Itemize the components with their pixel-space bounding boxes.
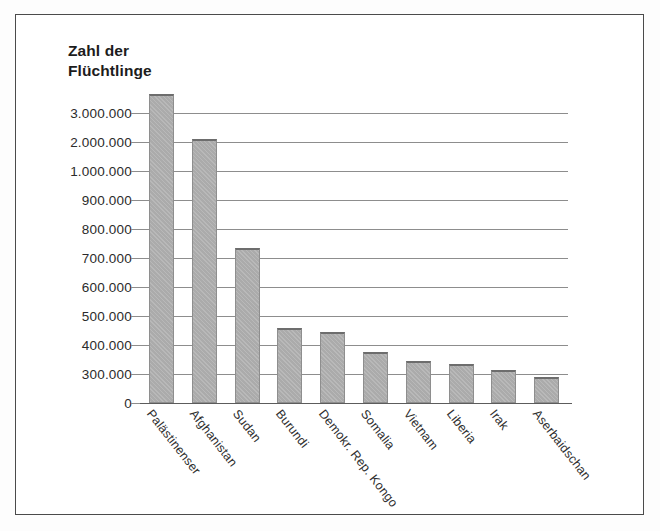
x-axis-tick-label: Liberia: [444, 407, 479, 446]
bar: [149, 94, 174, 403]
y-axis-tick-label: 900.000: [48, 193, 132, 208]
y-axis-tick-label: 600.000: [48, 280, 132, 295]
y-axis-tick: [131, 229, 140, 230]
y-axis-tick: [131, 200, 140, 201]
bar: [277, 328, 302, 403]
y-axis-tick: [131, 142, 140, 143]
bar: [491, 370, 516, 403]
x-axis-tick-label: Sudan: [230, 407, 264, 445]
y-axis-tick: [131, 113, 140, 114]
chart-title: Zahl der Flüchtlinge: [68, 41, 268, 81]
y-axis-tick-label: 400.000: [48, 338, 132, 353]
y-axis-labels: 3.000.0002.000.0001.000.000900.000800.00…: [44, 85, 132, 403]
y-axis-tick-label: 500.000: [48, 309, 132, 324]
x-axis-line: [132, 403, 572, 404]
y-axis-tick: [131, 345, 140, 346]
bar: [192, 139, 217, 403]
x-axis-tick-label: Aserbaidschan: [530, 407, 594, 483]
x-axis-tick-label: Somalia: [358, 407, 398, 452]
y-axis-tick-label: 700.000: [48, 251, 132, 266]
y-axis-tick-label: 0: [48, 396, 132, 411]
y-axis-tick: [131, 258, 140, 259]
figure: Zahl der Flüchtlinge 3.000.0002.000.0001…: [0, 0, 660, 531]
x-axis-labels: PalästinenserAfghanistanSudanBurundiDemo…: [140, 407, 568, 527]
bar: [235, 248, 260, 403]
bar: [406, 361, 431, 403]
y-axis-tick: [131, 374, 140, 375]
y-axis-tick: [131, 316, 140, 317]
x-axis-tick-label: Demokr. Rep. Kongo: [316, 407, 401, 510]
chart-frame: Zahl der Flüchtlinge 3.000.0002.000.0001…: [15, 14, 644, 515]
x-axis-tick-label: Irak: [487, 407, 511, 433]
y-axis-tick-label: 2.000.000: [48, 135, 132, 150]
y-axis-tick: [131, 171, 140, 172]
y-axis-tick-label: 1.000.000: [48, 164, 132, 179]
x-axis-tick-label: Burundi: [273, 407, 311, 451]
gridline: [140, 113, 568, 114]
bar: [534, 377, 559, 403]
y-axis-tick-label: 300.000: [48, 367, 132, 382]
bar: [363, 352, 388, 403]
bar: [449, 364, 474, 403]
y-axis-tick: [131, 287, 140, 288]
y-axis-tick-label: 800.000: [48, 222, 132, 237]
plot-area: [140, 85, 568, 403]
y-axis-tick-label: 3.000.000: [48, 106, 132, 121]
x-axis-tick-label: Vietnam: [401, 407, 441, 453]
bar: [320, 332, 345, 403]
y-axis-tick: [131, 403, 140, 404]
